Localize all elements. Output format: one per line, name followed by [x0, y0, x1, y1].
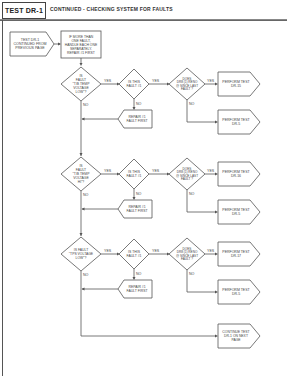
question-text: LOW"? — [76, 90, 87, 94]
yes-action-text: DR-16 — [231, 174, 241, 178]
no-label: NO — [136, 192, 142, 196]
no-label: NO — [189, 272, 195, 276]
no-action-text: DR-5 — [232, 122, 240, 126]
no-label: NO — [189, 102, 195, 106]
question-text: HI"? — [78, 180, 85, 184]
arrowhead — [215, 335, 218, 338]
arrowhead — [133, 107, 136, 110]
no-label: NO — [83, 273, 89, 277]
arrowhead — [133, 197, 136, 200]
arrowhead — [82, 288, 85, 291]
no-action-text: DR-5 — [232, 212, 240, 216]
no-label: NO — [136, 272, 142, 276]
question-text: LOW"? — [76, 256, 87, 260]
yes-action-text: DR-15 — [231, 84, 241, 88]
no-label: NO — [136, 102, 142, 106]
no-label: NO — [83, 193, 89, 197]
continue-text: PAGE — [231, 338, 241, 342]
no-label: NO — [189, 192, 195, 196]
is-fault-1-text: FAULT #1 — [127, 254, 142, 258]
repair-text: FAULT FIRST — [127, 209, 148, 213]
arrowhead — [82, 208, 85, 211]
yes-label: YES — [207, 169, 215, 173]
arrowhead — [82, 118, 85, 121]
repair-text: FAULT FIRST — [127, 119, 148, 123]
yes-label: YES — [104, 249, 112, 253]
arrowhead — [215, 291, 218, 294]
yes-action-text: DR-17 — [231, 254, 241, 258]
start-node-text: PREVIOUS PAGE — [15, 46, 45, 50]
is-fault-1-text: FAULT #1 — [127, 174, 142, 178]
reoccur-text: FAULT ? — [181, 177, 193, 181]
reoccur-text: FAULT ? — [181, 87, 193, 91]
arrowhead — [215, 173, 218, 176]
no-action-text: DR-5 — [232, 292, 240, 296]
yes-label: YES — [207, 249, 215, 253]
arrowhead — [215, 211, 218, 214]
yes-label: YES — [104, 79, 112, 83]
yes-label: YES — [152, 169, 160, 173]
arrowhead — [215, 83, 218, 86]
yes-label: YES — [152, 249, 160, 253]
arrowhead — [80, 153, 83, 156]
no-label: NO — [83, 103, 89, 107]
arrowhead — [215, 121, 218, 124]
intro-box-text: REPAIR #1 FIRST — [67, 51, 95, 55]
reoccur-text: FAULT ? — [181, 257, 193, 261]
yes-label: YES — [207, 79, 215, 83]
is-fault-1-text: FAULT #1 — [127, 84, 142, 88]
arrowhead — [133, 277, 136, 280]
arrowhead — [58, 43, 61, 46]
arrowhead — [80, 233, 83, 236]
yes-label: YES — [104, 169, 112, 173]
flowchart: TEST DR-1CONTINUED FROMPREVIOUS PAGEIF M… — [0, 0, 287, 379]
arrowhead — [80, 63, 83, 66]
arrowhead — [215, 253, 218, 256]
repair-text: FAULT FIRST — [127, 289, 148, 293]
yes-label: YES — [152, 79, 160, 83]
